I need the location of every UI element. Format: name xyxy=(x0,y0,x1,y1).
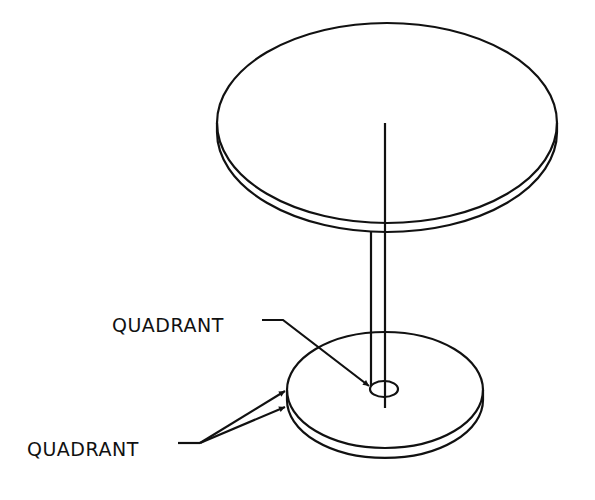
upper-disc xyxy=(217,23,557,232)
upper-disc-top-edge xyxy=(217,23,557,223)
label-quadrant-bottom: QUADRANT xyxy=(27,438,139,460)
label-quadrant-top: QUADRANT xyxy=(112,314,224,336)
lower-disc-bottom-edge xyxy=(287,400,483,458)
leader-arrow-top xyxy=(262,320,369,386)
quadrant-diagram: QUADRANT QUADRANT xyxy=(0,0,595,500)
leader-arrow-lower xyxy=(200,407,285,443)
upper-disc-bottom-edge xyxy=(217,132,557,232)
leader-arrow-upper xyxy=(200,391,285,443)
